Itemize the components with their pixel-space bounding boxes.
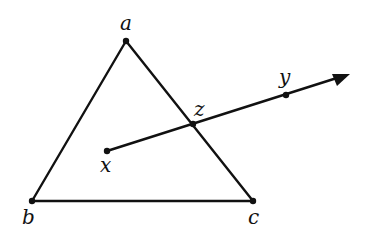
diagram-svg: a b c x z y (0, 0, 372, 250)
ray-xy (107, 77, 340, 151)
geometry-diagram: a b c x z y (0, 0, 372, 250)
segment-ab (32, 41, 126, 201)
point-b (29, 198, 35, 204)
point-y (283, 92, 289, 98)
label-y: y (278, 65, 291, 89)
label-b: b (22, 205, 35, 229)
segment-ca (126, 41, 253, 201)
arrowhead-icon (332, 74, 350, 86)
label-a: a (120, 11, 132, 35)
point-z (190, 121, 196, 127)
label-z: z (193, 97, 205, 121)
label-x: x (100, 153, 111, 177)
label-c: c (248, 205, 259, 229)
point-c (250, 198, 256, 204)
point-a (123, 38, 129, 44)
